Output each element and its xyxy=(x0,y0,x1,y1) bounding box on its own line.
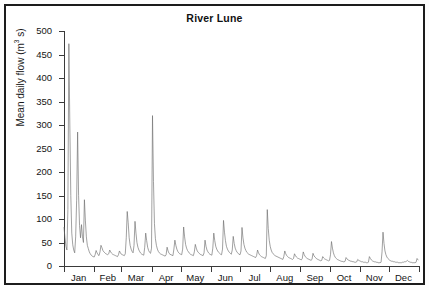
flow-series-line xyxy=(64,44,418,263)
x-axis-month-label: Jul xyxy=(249,272,261,283)
x-axis-tick xyxy=(360,267,361,272)
x-axis-tick xyxy=(419,267,420,272)
y-axis-tick-label: 300 xyxy=(4,119,52,130)
x-axis-tick xyxy=(64,267,65,272)
x-axis-tick xyxy=(300,267,301,272)
chart-title: River Lune xyxy=(6,12,423,24)
y-axis-tick-label: 400 xyxy=(4,72,52,83)
x-axis-tick xyxy=(211,267,212,272)
y-axis-tick-label: 50 xyxy=(4,237,52,248)
x-axis-month-label: Jan xyxy=(71,272,86,283)
y-axis-label-exponent: 3 xyxy=(13,40,20,44)
y-axis-tick-label: 150 xyxy=(4,190,52,201)
x-axis-line xyxy=(64,266,420,267)
x-axis-month-label: May xyxy=(186,272,204,283)
y-axis-tick-label: 450 xyxy=(4,49,52,60)
flow-series-plot xyxy=(64,31,419,266)
y-axis-tick-label: 250 xyxy=(4,143,52,154)
x-axis-month-label: Mar xyxy=(128,272,144,283)
x-axis-tick xyxy=(389,267,390,272)
x-axis-month-label: Sep xyxy=(306,272,323,283)
x-axis-tick xyxy=(330,267,331,272)
y-axis-tick-label: 100 xyxy=(4,213,52,224)
x-axis-month-label: Jun xyxy=(218,272,233,283)
x-axis-month-label: Aug xyxy=(276,272,293,283)
x-axis-tick xyxy=(270,267,271,272)
y-axis-tick-label: 350 xyxy=(4,96,52,107)
x-axis-tick xyxy=(240,267,241,272)
figure-inner: River Lune Mean daily flow (m3 s) 050100… xyxy=(6,6,423,283)
y-axis-tick-label: 500 xyxy=(4,25,52,36)
x-axis-tick xyxy=(152,267,153,272)
x-axis-month-label: Apr xyxy=(159,272,174,283)
x-axis-month-label: Oct xyxy=(337,272,352,283)
figure-frame: River Lune Mean daily flow (m3 s) 050100… xyxy=(4,4,425,285)
x-axis-month-label: Feb xyxy=(100,272,116,283)
x-axis-tick xyxy=(94,267,95,272)
y-axis-tick-label: 0 xyxy=(4,260,52,271)
x-axis-month-label: Dec xyxy=(395,272,412,283)
x-axis-tick xyxy=(181,267,182,272)
x-axis-tick xyxy=(121,267,122,272)
y-axis-tick-label: 200 xyxy=(4,166,52,177)
figure-page: River Lune Mean daily flow (m3 s) 050100… xyxy=(0,0,429,290)
x-axis-month-label: Nov xyxy=(366,272,383,283)
